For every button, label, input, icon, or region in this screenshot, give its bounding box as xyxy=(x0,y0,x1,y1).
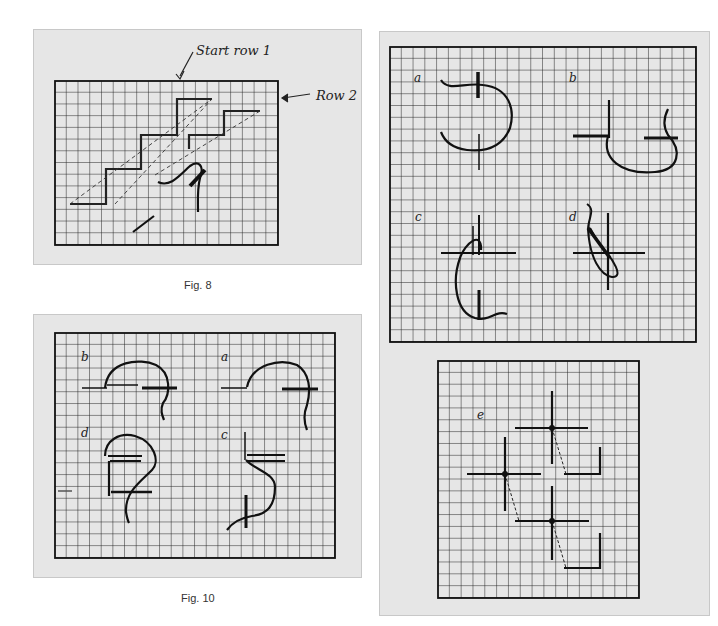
label-a: a xyxy=(221,350,228,364)
label-c: c xyxy=(221,428,228,442)
arrow-icon xyxy=(180,52,193,76)
row2-label: Row 2 xyxy=(315,88,357,103)
label-e: e xyxy=(477,408,484,422)
label-a: a xyxy=(414,71,421,85)
label-b: b xyxy=(81,350,89,364)
right-top-grid: a b c d xyxy=(390,47,696,342)
label-b: b xyxy=(569,71,577,85)
start-row-label: Start row 1 xyxy=(196,43,271,58)
label-d: d xyxy=(569,210,577,224)
label-d: d xyxy=(81,426,89,440)
fig10-grid: b a d c xyxy=(55,333,335,558)
drawings: Start row 1 Row 2 a b c d b a d xyxy=(0,0,718,626)
label-c: c xyxy=(415,210,422,224)
fig-e-grid: e xyxy=(438,361,639,598)
fig8-grid xyxy=(55,81,278,245)
